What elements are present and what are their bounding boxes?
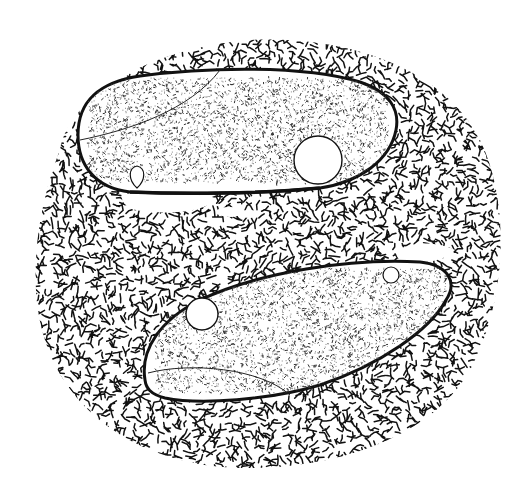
upper-cell: [78, 69, 397, 193]
large-vacuole: [294, 136, 342, 184]
large-vacuole: [186, 298, 218, 330]
small-vacuole: [383, 267, 399, 283]
cell-illustration: [0, 0, 527, 483]
illustration-canvas: Two spindle-shaped cells embedded in a t…: [0, 0, 527, 483]
